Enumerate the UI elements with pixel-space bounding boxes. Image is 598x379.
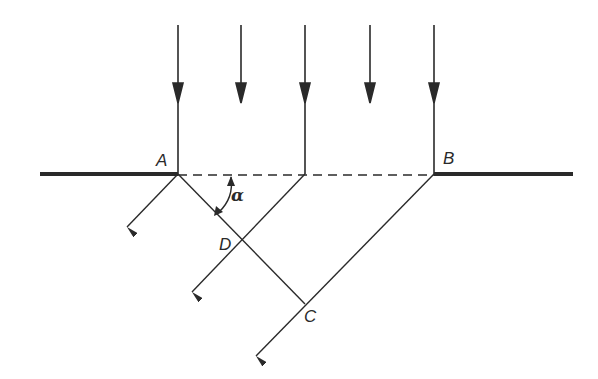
label-C: C xyxy=(304,307,317,326)
label-A: A xyxy=(155,151,167,170)
diffraction-diagram: A B D C α xyxy=(0,0,598,379)
label-alpha: α xyxy=(231,185,244,205)
arrowhead-icon xyxy=(173,83,183,103)
arrowhead-icon xyxy=(300,83,310,103)
arrowhead-icon xyxy=(365,83,375,103)
arrowhead-icon xyxy=(429,83,439,103)
incident-rays xyxy=(173,25,439,174)
label-B: B xyxy=(443,149,454,168)
label-D: D xyxy=(219,235,231,254)
diagram-canvas: A B D C α xyxy=(0,0,598,379)
diffracted-ray-from-B xyxy=(256,174,434,356)
arrowhead-icon xyxy=(236,83,246,103)
diffracted-rays xyxy=(127,174,434,356)
diffracted-ray-from-middle xyxy=(192,174,305,292)
diffracted-ray-from-A xyxy=(127,174,178,227)
